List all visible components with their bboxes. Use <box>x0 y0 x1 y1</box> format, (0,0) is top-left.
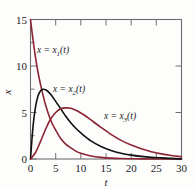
annotation-x1: x = x1(t) <box>36 45 69 58</box>
y-axis-right-ticks <box>176 66 182 113</box>
x-axis-top-ticks <box>56 20 157 26</box>
annotation-x2-base: x = x <box>52 84 73 94</box>
figure-container: 15 10 5 0 0 5 10 15 20 25 30 t x x = x1(… <box>0 0 194 189</box>
line-chart: 15 10 5 0 0 5 10 15 20 25 30 t x x = x1(… <box>0 0 194 189</box>
annotation-x3: x = x3(t) <box>103 111 136 124</box>
annotation-x3-tail: (t) <box>127 111 136 122</box>
y-tick-label-15: 15 <box>16 14 28 26</box>
annotation-x1-tail: (t) <box>60 45 69 56</box>
y-tick-label-5: 5 <box>22 107 28 119</box>
x-tick-label-20: 20 <box>126 162 138 174</box>
y-axis-title: x <box>1 89 13 95</box>
annotation-x3-base: x = x <box>103 111 124 121</box>
x-tick-label-25: 25 <box>151 162 163 174</box>
x-tick-label-15: 15 <box>101 162 113 174</box>
x-tick-label-5: 5 <box>53 162 59 174</box>
x-tick-label-0: 0 <box>28 162 34 174</box>
annotation-x2-tail: (t) <box>76 84 85 95</box>
x-tick-label-10: 10 <box>75 162 87 174</box>
y-tick-label-10: 10 <box>16 60 28 72</box>
x-tick-label-30: 30 <box>176 162 188 174</box>
annotation-x1-base: x = x <box>36 45 57 55</box>
y-tick-label-0: 0 <box>22 153 28 165</box>
x-axis-title: t <box>104 176 108 188</box>
annotation-x2: x = x2(t) <box>52 84 85 97</box>
